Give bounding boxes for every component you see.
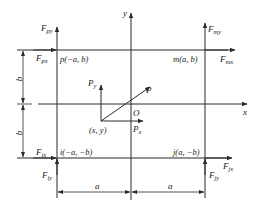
dim-label-a-left: a — [95, 181, 100, 191]
label-point-i: i(−a, −b) — [60, 147, 92, 157]
label-px: Px — [132, 124, 142, 135]
label-point-p: p(−a, b) — [59, 54, 89, 64]
label-point-j: j(a, −b) — [172, 147, 200, 157]
label-p: P — [145, 85, 152, 95]
label-fpx: Fpx — [35, 53, 48, 64]
label-fmy: Fmy — [207, 24, 221, 35]
dim-label-a-right: a — [168, 181, 173, 191]
label-fmx: Fmx — [219, 54, 233, 65]
label-point-m: m(a, b) — [173, 54, 198, 64]
label-fiy: Fiy — [41, 170, 52, 181]
label-fjx: Fjx — [222, 161, 233, 172]
label-py: Py — [87, 78, 97, 89]
label-load-point: (x, y) — [89, 125, 107, 135]
label-fjy: Fjy — [208, 170, 219, 181]
force-diagram: x y O Fpy Fpx p(−a, b) Fmy Fmx m(a, b) F… — [0, 0, 258, 213]
dim-label-b-upper: b — [14, 76, 24, 81]
dim-label-b-lower: b — [14, 130, 24, 135]
origin-label: O — [133, 108, 140, 118]
x-axis-label: x — [242, 107, 247, 117]
label-fpy: Fpy — [40, 23, 53, 34]
y-axis-label: y — [122, 8, 127, 18]
label-fix: Fix — [35, 147, 46, 158]
